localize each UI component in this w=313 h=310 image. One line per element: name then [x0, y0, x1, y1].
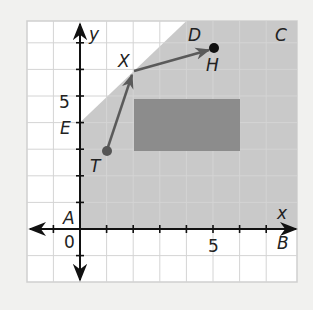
point-label-X: X — [117, 51, 130, 71]
point-label-T: T — [90, 156, 102, 176]
y-axis-label: y — [88, 24, 100, 44]
vertex-label-B: B — [277, 233, 289, 253]
vertex-label-C: C — [275, 25, 287, 45]
coordinate-plane-figure: x y 0 5 5 A B C D E T X H — [0, 0, 313, 310]
origin-label: 0 — [64, 232, 75, 252]
vertex-label-E: E — [60, 118, 71, 138]
dark-rectangle — [134, 99, 240, 151]
vertex-label-A: A — [62, 208, 75, 228]
x-tick-5-label: 5 — [208, 236, 219, 256]
point-label-H: H — [206, 55, 219, 75]
point-H — [209, 43, 219, 53]
y-tick-5-label: 5 — [59, 92, 70, 112]
vertex-label-D: D — [188, 25, 201, 45]
point-T — [102, 146, 112, 156]
x-axis-label: x — [276, 203, 288, 223]
